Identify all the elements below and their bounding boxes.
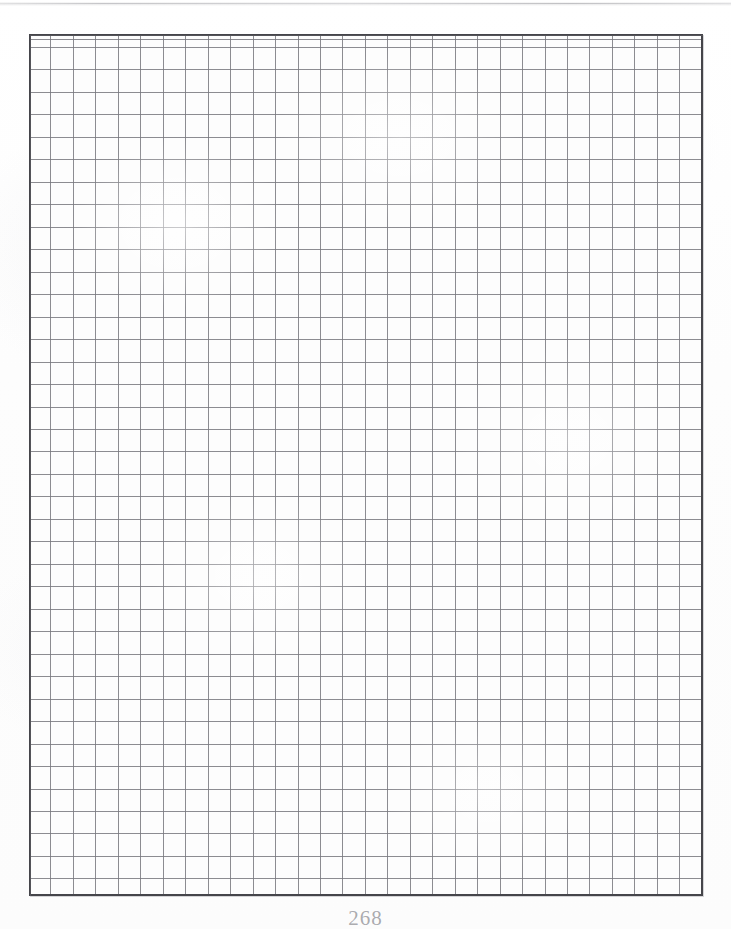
scanned-page: 268 <box>0 0 731 929</box>
graph-paper-grid <box>29 34 703 896</box>
grid-ruling-lines <box>29 34 703 896</box>
scan-edge-artifact <box>0 2 731 6</box>
page-number: 268 <box>0 908 731 929</box>
